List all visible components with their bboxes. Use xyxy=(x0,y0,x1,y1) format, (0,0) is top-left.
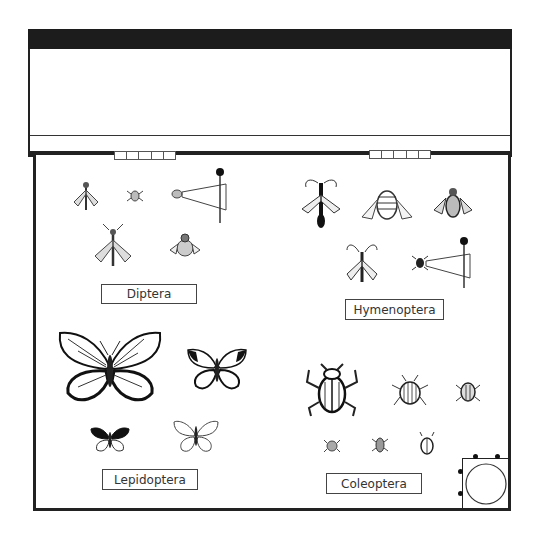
lid-top-bar xyxy=(28,29,512,49)
right-hinge[interactable] xyxy=(369,150,431,159)
small-fly-icon[interactable] xyxy=(127,187,143,203)
fly-icon[interactable] xyxy=(72,180,100,212)
ichneumon-icon[interactable] xyxy=(345,240,379,286)
white-butterfly-icon[interactable] xyxy=(172,418,220,454)
pin-dot xyxy=(458,469,463,474)
tiny-beetle-icon[interactable] xyxy=(324,438,340,454)
wasp-icon[interactable] xyxy=(300,177,342,231)
small-beetle-icon[interactable] xyxy=(456,377,480,405)
bee-icon[interactable] xyxy=(432,184,474,222)
label-lepidoptera: Lepidoptera xyxy=(102,469,198,490)
left-hinge[interactable] xyxy=(114,151,176,160)
round-container[interactable] xyxy=(462,458,509,509)
pin-dot xyxy=(473,454,478,459)
label-hymenoptera: Hymenoptera xyxy=(345,299,444,320)
pinned-fly-with-label-icon[interactable] xyxy=(170,167,230,227)
lid-edge-line xyxy=(30,135,510,136)
tiny-beetle-icon[interactable] xyxy=(418,432,436,456)
pin-dot xyxy=(458,491,463,496)
crane-fly-icon[interactable] xyxy=(93,224,133,268)
pinned-ant-with-label-icon[interactable] xyxy=(412,236,472,290)
large-beetle-icon[interactable] xyxy=(305,362,359,418)
label-coleoptera: Coleoptera xyxy=(326,473,422,494)
striped-beetle-icon[interactable] xyxy=(390,373,430,409)
bee-fly-icon[interactable] xyxy=(170,232,200,258)
pin-dot xyxy=(495,454,500,459)
circle-icon xyxy=(463,459,507,507)
large-butterfly-icon[interactable] xyxy=(58,331,162,405)
label-diptera-text: Diptera xyxy=(127,287,172,301)
label-coleoptera-text: Coleoptera xyxy=(341,477,407,491)
black-tipped-butterfly-icon[interactable] xyxy=(186,346,248,392)
label-lepidoptera-text: Lepidoptera xyxy=(114,473,186,487)
label-diptera: Diptera xyxy=(101,284,197,304)
bumblebee-icon[interactable] xyxy=(362,181,412,223)
tiny-beetle-icon[interactable] xyxy=(372,434,388,454)
small-butterfly-icon[interactable] xyxy=(89,425,131,453)
label-hymenoptera-text: Hymenoptera xyxy=(353,303,435,317)
